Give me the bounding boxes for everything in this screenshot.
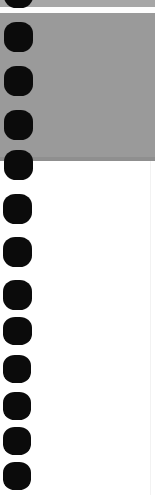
punch-hole [4, 66, 33, 96]
punch-hole [3, 462, 31, 490]
punch-hole [3, 237, 32, 267]
punch-hole [3, 392, 31, 420]
punch-hole [4, 110, 33, 140]
punch-hole [3, 355, 31, 383]
punch-hole [4, 22, 33, 52]
punch-hole [4, 150, 33, 180]
punch-hole [3, 280, 32, 310]
scanned-page-margin [0, 0, 155, 495]
punch-hole [3, 317, 32, 345]
punch-hole [3, 427, 31, 455]
punch-hole [4, 0, 33, 8]
punch-hole [3, 194, 32, 224]
punch-hole-column [0, 0, 155, 495]
